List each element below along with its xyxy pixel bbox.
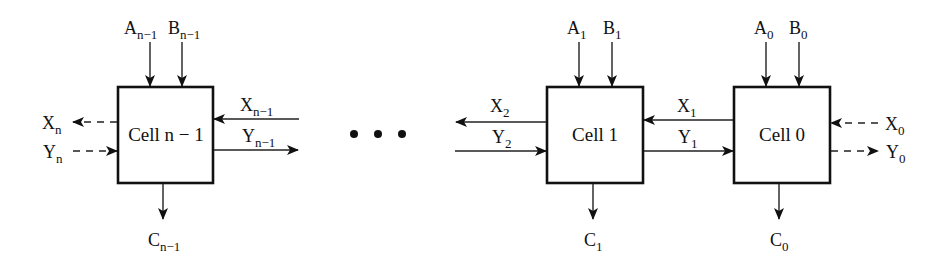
- cell-n-minus-1: Cell n − 1 An−1 Bn−1 Cn−1 Xn Yn Xn−1 Yn−…: [42, 18, 299, 254]
- a-n-minus-1-label: An−1: [124, 18, 157, 42]
- y-n-minus-1-label: Yn−1: [242, 126, 275, 150]
- b-0-label: B0: [789, 18, 808, 42]
- x-0-label: X0: [885, 114, 905, 138]
- cell-1: Cell 1 A1 B1 C1 X2 Y2 X1 Y1: [455, 18, 733, 254]
- b-1-label: B1: [603, 18, 622, 42]
- cell-1-label: Cell 1: [572, 124, 618, 145]
- x-1-label: X1: [677, 96, 697, 120]
- cell-n-minus-1-label: Cell n − 1: [128, 124, 204, 145]
- c-0-label: C0: [770, 230, 789, 254]
- a-0-label: A0: [754, 18, 774, 42]
- y-n-label: Yn: [43, 142, 63, 166]
- ellipsis-dots: [350, 130, 406, 138]
- x-2-label: X2: [490, 96, 510, 120]
- cell-0: Cell 0 A0 B0 C0 X0 Y0: [734, 18, 906, 254]
- cell-array-diagram: Cell n − 1 An−1 Bn−1 Cn−1 Xn Yn Xn−1 Yn−…: [0, 0, 951, 269]
- a-1-label: A1: [567, 18, 587, 42]
- x-n-minus-1-label: Xn−1: [240, 95, 273, 119]
- y-0-label: Y0: [886, 142, 906, 166]
- c-1-label: C1: [584, 230, 603, 254]
- y-1-label: Y1: [678, 127, 698, 151]
- x-n-label: Xn: [42, 113, 62, 137]
- cell-0-label: Cell 0: [759, 124, 805, 145]
- c-n-minus-1-label: Cn−1: [148, 230, 180, 254]
- y-2-label: Y2: [492, 127, 512, 151]
- b-n-minus-1-label: Bn−1: [168, 18, 200, 42]
